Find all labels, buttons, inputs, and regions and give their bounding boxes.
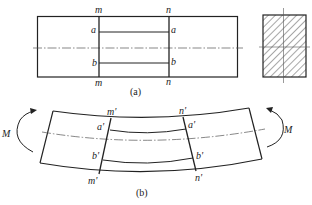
label-a-right: a bbox=[171, 24, 176, 35]
fiber-a-prime bbox=[110, 129, 186, 133]
label-a-prime-right: a' bbox=[188, 119, 196, 130]
panel-b: m' n' a' a' b' b' m' n' (b) M M bbox=[1, 105, 293, 199]
label-n-bottom: n bbox=[166, 76, 171, 87]
label-b-right: b bbox=[171, 56, 176, 67]
label-a-prime-left: a' bbox=[97, 121, 105, 132]
label-b-prime-right: b' bbox=[196, 150, 204, 161]
label-m-prime-top: m' bbox=[107, 106, 117, 117]
bent-beam-top-edge bbox=[53, 108, 249, 117]
bent-beam-bottom-edge bbox=[40, 159, 262, 172]
caption-a: (a) bbox=[130, 86, 141, 98]
label-moment-right: M bbox=[283, 124, 293, 135]
label-n-prime-bottom: n' bbox=[195, 172, 203, 183]
fiber-b-prime bbox=[103, 158, 193, 163]
moment-arrow-right-icon bbox=[266, 107, 283, 147]
beam-outline bbox=[38, 17, 238, 78]
label-b-left: b bbox=[92, 57, 97, 68]
label-moment-left: M bbox=[1, 128, 11, 139]
label-b-prime-left: b' bbox=[92, 150, 100, 161]
panel-a: m n a a b b m n (a) bbox=[33, 4, 310, 98]
label-n-top: n bbox=[166, 4, 171, 15]
right-end bbox=[249, 108, 262, 159]
label-m-bottom: m bbox=[95, 77, 102, 88]
left-end bbox=[40, 111, 53, 163]
label-a-left: a bbox=[91, 24, 96, 35]
caption-b: (b) bbox=[136, 187, 148, 199]
label-n-prime-top: n' bbox=[179, 105, 187, 116]
centerline-bent bbox=[42, 129, 265, 140]
pure-bending-diagram: m n a a b b m n (a) m' n' a' a' b' b' m'… bbox=[0, 0, 312, 205]
cross-section bbox=[259, 8, 310, 83]
label-m-top: m bbox=[95, 4, 102, 15]
moment-arrow-left-icon bbox=[17, 108, 37, 152]
label-m-prime-bottom: m' bbox=[88, 175, 98, 186]
